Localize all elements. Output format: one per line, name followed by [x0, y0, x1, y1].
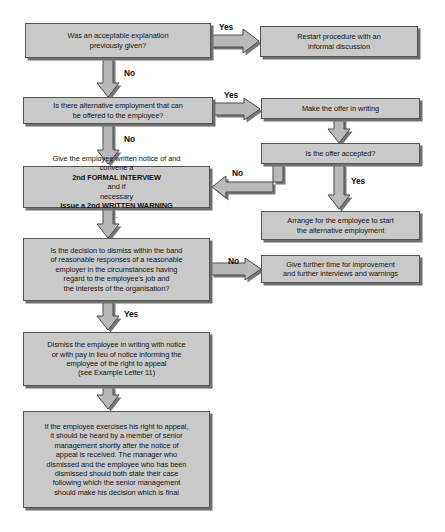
alternative-employment-decision[interactable]: Is there alternative employment that can… [23, 97, 213, 124]
node-line: employer in the circumstances having [28, 265, 205, 274]
node-line: appeal is received. The manager who [28, 450, 205, 459]
node-line: employee of the right to appeal [28, 359, 205, 368]
node-line: Is there alternative employment that can [28, 101, 208, 110]
make-offer-in-writing-box[interactable]: Make the offer in writing [261, 98, 420, 119]
dismiss-employee-box[interactable]: Dismiss the employee in writing with not… [23, 332, 210, 386]
acceptable-explanation-decision[interactable]: Was an acceptable explanation previously… [25, 23, 211, 58]
arrange-alternative-employment-box[interactable]: Arrange for the employee to start the al… [261, 211, 420, 240]
node-line: Was an acceptable explanation [30, 31, 206, 40]
node-line: Give further time for improvement [266, 260, 415, 269]
node-text: Restart procedure with an informal discu… [265, 32, 413, 51]
arrow-offer-yes [328, 164, 353, 212]
no-label-offer-accepted: No [232, 168, 243, 178]
arrow-explanation-no [97, 58, 122, 100]
node-line-part: convene a [28, 163, 205, 172]
node-text: If the employee exercises his right to a… [28, 422, 205, 497]
node-text: Arrange for the employee to start the al… [266, 216, 415, 235]
give-further-time-box[interactable]: Give further time for improvement and fu… [261, 255, 420, 283]
node-line-emphasis: 2nd FORMAL INTERVIEW [72, 173, 161, 182]
node-line: Arrange for the employee to start [266, 216, 415, 225]
node-text: Is the decision to dismiss within the ba… [28, 246, 205, 293]
node-line-part: necessary [28, 192, 205, 201]
yes-label-reasonable-responses: Yes [124, 309, 138, 319]
node-line: the interests of the organisation? [28, 284, 205, 293]
node-line: Is the decision to dismiss within the ba… [28, 246, 205, 255]
node-line: regard to the employee's job and [28, 274, 205, 283]
restart-procedure-box[interactable]: Restart procedure with an informal discu… [260, 26, 418, 57]
no-label-explanation: No [124, 68, 135, 78]
node-line-part: and if [28, 182, 205, 191]
node-line: Dismiss the employee in writing with not… [28, 340, 205, 349]
yes-label-explanation: Yes [219, 22, 233, 32]
yes-label-alternative-employment: Yes [224, 90, 238, 100]
node-text: Give the employee written notice of and … [28, 154, 205, 220]
appeal-process-box[interactable]: If the employee exercises his right to a… [23, 411, 210, 508]
yes-label-offer-accepted: Yes [351, 176, 365, 186]
no-label-reasonable-responses: No [228, 256, 239, 266]
node-text: Give further time for improvement and fu… [266, 260, 415, 279]
node-line: be offered to the employee? [28, 111, 208, 120]
node-line: the alternative employment [266, 226, 415, 235]
node-line: Make the offer in writing [266, 104, 415, 113]
no-label-alternative-employment: No [124, 134, 135, 144]
node-text: Is there alternative employment that can… [28, 101, 208, 120]
node-line: it should be heard by a member of senior [28, 431, 205, 440]
node-line: convene a 2nd FORMAL INTERVIEW and if [28, 163, 205, 191]
node-text: Dismiss the employee in writing with not… [28, 340, 205, 378]
arrow-offer-to-accepted [328, 119, 353, 146]
node-line: informal discussion [265, 42, 413, 51]
node-text: Was an acceptable explanation previously… [30, 31, 206, 50]
node-line: Is the offer accepted? [266, 149, 415, 158]
arrow-offer-no [212, 164, 286, 201]
arrow-explanation-yes [211, 29, 262, 56]
node-line: necessary issue a 2nd WRITTEN WARNING. [28, 192, 205, 220]
arrow-reasonable-yes [97, 301, 122, 333]
node-line: dismissed and the employee who has been [28, 460, 205, 469]
second-formal-interview-box[interactable]: Give the employee written notice of and … [23, 166, 210, 208]
node-line: and further interviews and warnings [266, 269, 415, 278]
arrow-alternative-yes [214, 98, 263, 123]
node-line-part: . [28, 211, 205, 220]
node-line: following which the senior management [28, 478, 205, 487]
node-line: dismissed should both state their case [28, 469, 205, 478]
offer-accepted-decision[interactable]: Is the offer accepted? [261, 143, 420, 164]
node-line: (see Example Letter 11) [28, 368, 205, 377]
node-line: If the employee exercises his right to a… [28, 422, 205, 431]
node-line: should make his decision which is final [28, 488, 205, 497]
node-line: management shortly after the notice of [28, 441, 205, 450]
node-line: Give the employee written notice of and [28, 154, 205, 163]
node-line: previously given? [30, 41, 206, 50]
node-line-emphasis: issue a 2nd WRITTEN WARNING [60, 201, 172, 210]
node-line: of reasonable responses of a reasonable [28, 255, 205, 264]
band-of-reasonable-responses-decision[interactable]: Is the decision to dismiss within the ba… [23, 238, 210, 301]
node-line: Restart procedure with an [265, 32, 413, 41]
flowchart-canvas: Was an acceptable explanation previously… [0, 0, 445, 532]
arrow-dismiss-to-appeal [97, 386, 122, 412]
node-line: or with pay in lieu of notice informing … [28, 350, 205, 359]
